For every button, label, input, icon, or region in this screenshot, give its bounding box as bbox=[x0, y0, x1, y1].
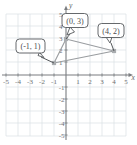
x-tick-label: -4 bbox=[15, 78, 21, 86]
y-tick-label: -3 bbox=[59, 108, 65, 116]
x-tick-label: -2 bbox=[39, 78, 45, 86]
x-tick-label: -3 bbox=[27, 78, 33, 86]
coordinate-plot: y x -5 bbox=[0, 0, 137, 145]
x-tick-label: -5 bbox=[3, 78, 9, 86]
y-tick-label: -1 bbox=[59, 84, 65, 92]
x-tick-label: 5 bbox=[124, 78, 128, 86]
y-axis-label: y bbox=[68, 1, 73, 10]
x-axis-label: x bbox=[131, 73, 136, 82]
y-tick-label: -5 bbox=[59, 132, 65, 140]
y-tick-label: 3 bbox=[59, 35, 63, 43]
y-tick-label: -4 bbox=[59, 120, 65, 128]
callout-label-p1: (-1, 1) bbox=[21, 42, 41, 51]
callout-label-p2: (0, 3) bbox=[66, 17, 84, 26]
x-tick-label: 1 bbox=[76, 78, 80, 86]
y-tick-label: 2 bbox=[59, 47, 63, 55]
y-tick-label: -2 bbox=[59, 96, 65, 104]
callout-label-p3: (4, 2) bbox=[102, 27, 120, 36]
x-tick-label: 3 bbox=[100, 78, 104, 86]
x-tick-label: -1 bbox=[51, 78, 57, 86]
x-tick-label: 2 bbox=[88, 78, 92, 86]
x-tick-label: 4 bbox=[112, 78, 116, 86]
coordinate-plane-figure: y x -5 bbox=[0, 0, 137, 145]
y-tick-label: 1 bbox=[59, 59, 63, 67]
